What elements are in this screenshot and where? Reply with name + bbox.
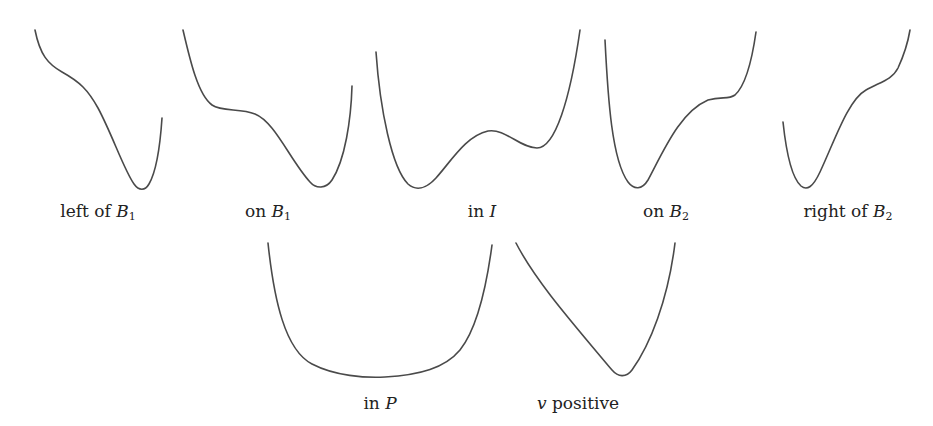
label-in-i: in I: [468, 201, 497, 221]
label-subscript: 2: [886, 210, 893, 223]
label-text: on: [643, 201, 670, 221]
label-text: on: [245, 201, 272, 221]
label-subscript: 2: [682, 210, 689, 223]
label-v-positive: v positive: [537, 393, 619, 413]
label-subscript: 1: [284, 210, 291, 223]
label-left-of-b1: left of B1: [60, 201, 135, 221]
curve-on-b1: [183, 30, 352, 187]
label-math: P: [385, 393, 396, 413]
label-in-p: in P: [363, 393, 396, 413]
label-subscript: 1: [129, 210, 136, 223]
label-math: B: [116, 201, 129, 221]
curve-in-i: [376, 30, 580, 188]
label-text: positive: [546, 393, 619, 413]
curve-right-of-b2: [783, 30, 910, 188]
label-text: in: [468, 201, 490, 221]
label-math: B: [670, 201, 683, 221]
label-right-of-b2: right of B2: [803, 201, 892, 221]
label-text: left of: [60, 201, 116, 221]
potential-curves-figure: [0, 0, 933, 426]
label-text: in: [363, 393, 385, 413]
curve-v-positive: [516, 243, 675, 376]
label-math: v: [537, 393, 547, 413]
label-math: B: [873, 201, 886, 221]
curve-on-b2: [605, 32, 756, 188]
curve-in-p: [268, 243, 492, 377]
label-math: B: [272, 201, 285, 221]
label-on-b2: on B2: [643, 201, 689, 221]
label-math: I: [490, 201, 497, 221]
label-on-b1: on B1: [245, 201, 291, 221]
curve-left-of-b1: [35, 30, 162, 189]
label-text: right of: [803, 201, 873, 221]
